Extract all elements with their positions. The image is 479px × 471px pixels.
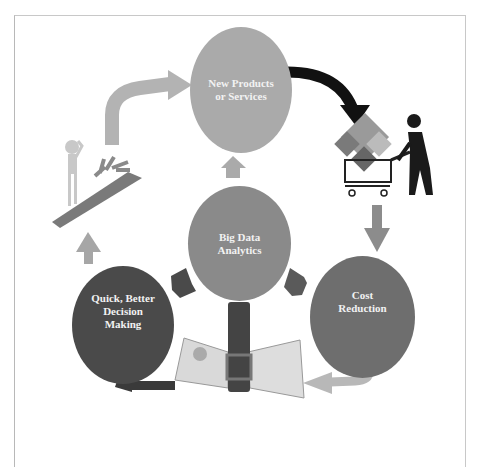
arrow-decision-up [76, 232, 101, 264]
node-cost-reduction: Cost Reduction [310, 256, 415, 378]
arrow-cart-to-cost [364, 205, 390, 252]
node-big-data-label: Big Data Analytics [218, 231, 262, 257]
arrow-center-up [221, 156, 246, 178]
money-belt-image [175, 302, 304, 398]
arrow-center-to-cost [284, 268, 307, 296]
node-cost-reduction-label: Cost Reduction [338, 289, 386, 315]
arrow-decision-to-products [112, 70, 192, 145]
arrow-center-to-decision [171, 268, 196, 298]
node-new-products: New Products or Services [190, 27, 292, 153]
node-decision-making: Quick, Better Decision Making [72, 266, 174, 384]
node-new-products-label: New Products or Services [208, 77, 273, 103]
arrow-products-to-cart [282, 72, 370, 126]
decision-figure-image [52, 140, 142, 228]
shopping-cart-image [334, 113, 433, 196]
node-decision-making-label: Quick, Better Decision Making [91, 292, 155, 331]
node-big-data-analytics: Big Data Analytics [188, 186, 291, 301]
